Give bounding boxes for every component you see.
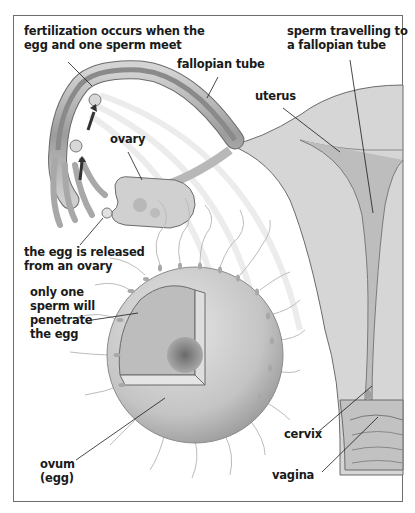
label-fertilization: fertilization occurs when the egg and on… [24, 24, 205, 52]
label-uterus: uterus [255, 89, 296, 103]
label-ovary: ovary [110, 132, 145, 146]
ovary [102, 177, 195, 228]
label-one-sperm: only one sperm will penetrate the egg [30, 285, 95, 341]
label-cervix: cervix [284, 427, 322, 441]
label-ovum: ovum (egg) [40, 457, 75, 485]
label-vagina: vagina [272, 468, 314, 482]
cervix-vagina [340, 390, 403, 470]
label-egg-released: the egg is released from an ovary [24, 245, 145, 273]
ovum [107, 263, 283, 444]
label-sperm-travelling: sperm travelling to a fallopian tube [287, 24, 408, 52]
label-fallopian-tube: fallopian tube [177, 57, 265, 71]
